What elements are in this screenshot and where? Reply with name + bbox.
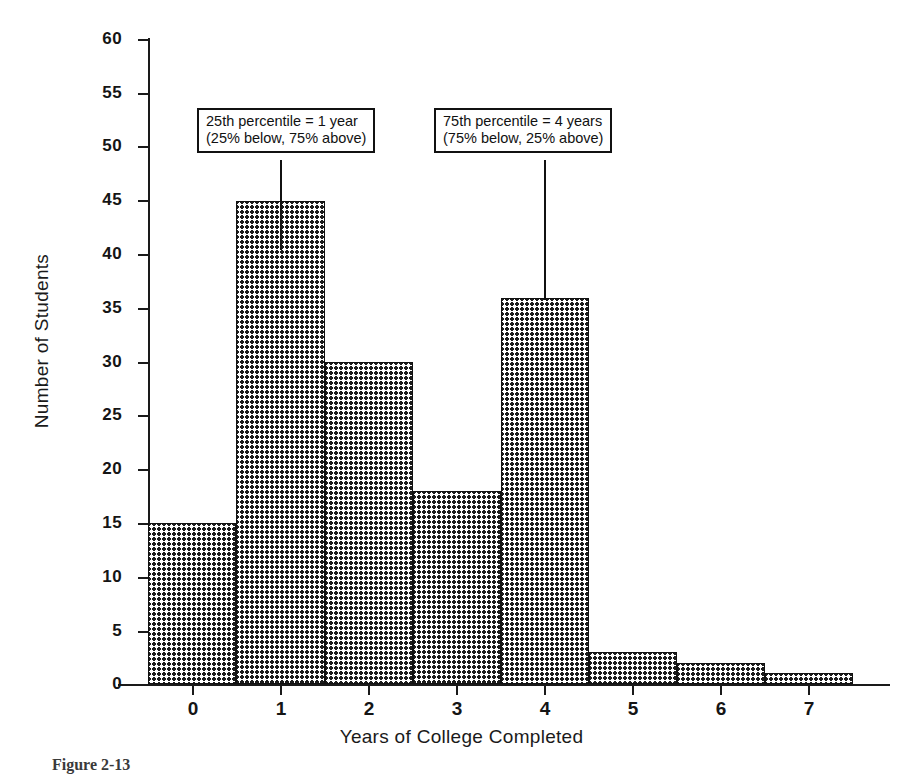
figure-caption-text: Figure 2-13: [52, 756, 130, 773]
y-tick-60: [138, 39, 148, 41]
y-tick-label-50: 50: [78, 136, 122, 156]
x-tick-label-7: 7: [789, 698, 829, 720]
y-tick-35: [138, 308, 148, 310]
y-tick-25: [138, 415, 148, 417]
y-tick-label-35: 35: [78, 298, 122, 318]
x-tick-3: [456, 686, 458, 695]
annotation-box-p25: 25th percentile = 1 year (25% below, 75%…: [197, 108, 375, 153]
y-tick-15: [138, 523, 148, 525]
histogram-figure: 60 55 50 45 40 35 30 25 20 15 10 5 0 0 1…: [0, 0, 923, 780]
x-tick-6: [720, 686, 722, 695]
y-tick-label-5: 5: [78, 621, 122, 641]
x-tick-label-2: 2: [349, 698, 389, 720]
y-tick-10: [138, 577, 148, 579]
y-tick-40: [138, 254, 148, 256]
x-tick-label-4: 4: [525, 698, 565, 720]
x-tick-label-0: 0: [173, 698, 213, 720]
x-tick-7: [808, 686, 810, 695]
annotation-p75-line1: 75th percentile = 4 years: [443, 113, 603, 130]
y-tick-label-40: 40: [78, 244, 122, 264]
annotation-box-p75: 75th percentile = 4 years (75% below, 25…: [434, 108, 612, 153]
y-tick-30: [138, 362, 148, 364]
y-tick-20: [138, 469, 148, 471]
y-tick-label-10: 10: [78, 567, 122, 587]
x-axis-title: Years of College Completed: [0, 726, 923, 748]
annotation-p75-line2: (75% below, 25% above): [443, 130, 603, 147]
y-tick-50: [138, 146, 148, 148]
x-tick-1: [280, 686, 282, 695]
bar-6: [677, 663, 765, 684]
y-tick-55: [138, 93, 148, 95]
y-tick-label-45: 45: [78, 190, 122, 210]
x-tick-2: [368, 686, 370, 695]
bar-0: [148, 523, 236, 684]
plot-area: 60 55 50 45 40 35 30 25 20 15 10 5 0 0 1…: [0, 0, 923, 780]
figure-caption: Figure 2-13: [52, 756, 902, 778]
bar-1: [236, 201, 325, 684]
x-axis-line: [118, 684, 890, 686]
y-tick-0: [138, 684, 148, 686]
y-tick-5: [138, 631, 148, 633]
y-tick-label-20: 20: [78, 459, 122, 479]
annotation-stem-p25: [280, 160, 282, 250]
x-tick-0: [192, 686, 194, 695]
bar-7: [765, 673, 853, 684]
bar-5: [589, 652, 677, 684]
annotation-stem-p75: [544, 160, 546, 300]
y-tick-label-60: 60: [78, 29, 122, 49]
x-tick-4: [544, 686, 546, 695]
x-tick-label-1: 1: [261, 698, 301, 720]
y-tick-label-0: 0: [78, 674, 122, 694]
x-tick-label-3: 3: [437, 698, 477, 720]
annotation-p25-line1: 25th percentile = 1 year: [206, 113, 366, 130]
x-tick-label-5: 5: [613, 698, 653, 720]
annotation-p25-line2: (25% below, 75% above): [206, 130, 366, 147]
y-tick-label-55: 55: [78, 83, 122, 103]
y-axis-title: Number of Students: [31, 191, 53, 491]
y-tick-label-15: 15: [78, 513, 122, 533]
x-tick-5: [632, 686, 634, 695]
bar-2: [325, 362, 413, 684]
x-tick-label-6: 6: [701, 698, 741, 720]
bar-3: [413, 491, 501, 684]
y-tick-label-30: 30: [78, 352, 122, 372]
y-tick-45: [138, 200, 148, 202]
bar-4: [501, 298, 589, 684]
y-tick-label-25: 25: [78, 405, 122, 425]
